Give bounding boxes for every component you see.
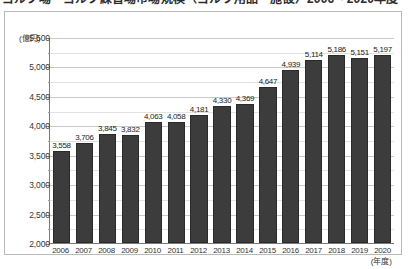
x-axis-tick-label: 2009 — [118, 246, 141, 255]
x-axis-labels: 2006200720082009201020112012201320142015… — [49, 246, 394, 255]
bar-slot: 3,832 — [119, 38, 142, 243]
y-axis-tick-label: 4,000 — [29, 121, 50, 131]
x-axis-tick-label: 2006 — [49, 246, 72, 255]
bar-slot: 3,845 — [96, 38, 119, 243]
y-axis-tick-label: 2,000 — [29, 239, 50, 249]
bar-value-label: 4,063 — [144, 112, 163, 121]
page-title: ゴルフ場・ゴルフ練習場市場規模（ゴルフ用品・施設）2006～2020年度 — [2, 0, 399, 6]
bar[interactable] — [213, 106, 230, 243]
x-axis-tick-label: 2015 — [256, 246, 279, 255]
bar-series: 3,5583,7063,8453,8324,0634,0584,1814,330… — [50, 38, 394, 243]
bar-slot: 4,058 — [165, 38, 188, 243]
x-axis-tick-label: 2007 — [72, 246, 95, 255]
y-axis-tick-label: 5,000 — [29, 62, 50, 72]
bar-value-label: 4,369 — [236, 94, 255, 103]
x-axis-tick-label: 2010 — [141, 246, 164, 255]
bar-slot: 5,197 — [371, 38, 394, 243]
bar-value-label: 4,647 — [259, 77, 278, 86]
x-axis-tick-label: 2019 — [348, 246, 371, 255]
bar-value-label: 4,939 — [282, 60, 301, 69]
x-axis-tick-label: 2012 — [187, 246, 210, 255]
bar-slot: 4,063 — [142, 38, 165, 243]
x-axis-tick-label: 2008 — [95, 246, 118, 255]
bar-slot: 4,939 — [279, 38, 302, 243]
bar[interactable] — [190, 115, 207, 243]
bar-value-label: 4,181 — [190, 105, 209, 114]
bar[interactable] — [168, 122, 185, 243]
bar-slot: 4,330 — [211, 38, 234, 243]
plot-area: 3,5583,7063,8453,8324,0634,0584,1814,330… — [49, 38, 394, 244]
bar-value-label: 5,114 — [305, 50, 323, 59]
bar-value-label: 4,330 — [213, 96, 232, 105]
bar-slot: 5,186 — [325, 38, 348, 243]
bar-slot: 4,369 — [234, 38, 257, 243]
bar-slot: 3,706 — [73, 38, 96, 243]
x-axis-tick-label: 2011 — [164, 246, 187, 255]
x-axis-unit-label: (年度) — [49, 255, 394, 266]
bar-slot: 3,558 — [50, 38, 73, 243]
bar-slot: 5,114 — [302, 38, 325, 243]
x-axis-tick-label: 2014 — [233, 246, 256, 255]
chart-frame: (億円) 3,5583,7063,8453,8324,0634,0584,181… — [4, 11, 402, 255]
bar-value-label: 3,832 — [121, 125, 140, 134]
bar-slot: 5,151 — [348, 38, 371, 243]
bar-value-label: 3,706 — [75, 133, 94, 142]
bar[interactable] — [305, 60, 322, 243]
bar-value-label: 4,058 — [167, 112, 186, 121]
y-axis-tick-label: 2,500 — [29, 210, 50, 220]
bar[interactable] — [259, 87, 276, 243]
bar-value-label: 5,151 — [350, 48, 369, 57]
bar-slot: 4,647 — [256, 38, 279, 243]
y-axis-tick-label: 3,500 — [29, 151, 50, 161]
y-axis-tick-label: 4,500 — [29, 92, 50, 102]
bar-value-label: 5,197 — [373, 45, 392, 54]
x-axis-tick-label: 2013 — [210, 246, 233, 255]
bar[interactable] — [145, 122, 162, 243]
bar-value-label: 3,845 — [98, 124, 117, 133]
bar[interactable] — [236, 104, 253, 243]
x-axis-tick-label: 2016 — [279, 246, 302, 255]
bar[interactable] — [282, 70, 299, 243]
y-axis-tick-label: 5,500 — [29, 33, 50, 43]
x-axis-tick-label: 2018 — [325, 246, 348, 255]
bar[interactable] — [122, 135, 139, 243]
chart-title-strip: ゴルフ場・ゴルフ練習場市場規模（ゴルフ用品・施設）2006～2020年度 — [0, 0, 408, 9]
bar[interactable] — [99, 134, 116, 243]
bar[interactable] — [76, 143, 93, 243]
y-axis-tick-label: 3,000 — [29, 180, 50, 190]
x-axis-tick-label: 2020 — [371, 246, 394, 255]
bar-value-label: 3,558 — [52, 141, 71, 150]
bar-slot: 4,181 — [188, 38, 211, 243]
bar[interactable] — [53, 151, 70, 243]
bar[interactable] — [351, 58, 368, 243]
x-axis-tick-label: 2017 — [302, 246, 325, 255]
bar[interactable] — [328, 55, 345, 243]
bar[interactable] — [374, 55, 391, 243]
bar-value-label: 5,186 — [327, 45, 346, 54]
